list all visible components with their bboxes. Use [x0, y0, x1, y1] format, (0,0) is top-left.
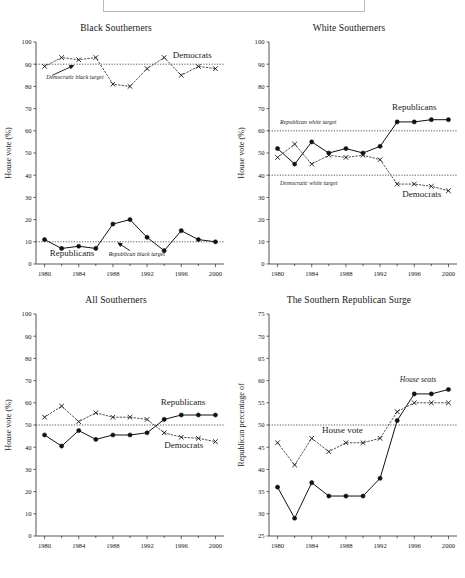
data-point-marker: [378, 476, 382, 480]
data-point-marker: [213, 240, 217, 244]
y-tick-label: 20: [25, 488, 32, 495]
data-point-marker: [446, 387, 450, 391]
data-point-marker: [327, 449, 332, 454]
annotation-arrow-head: [118, 243, 122, 247]
data-point-marker: [395, 409, 400, 414]
data-point-marker: [179, 413, 183, 417]
data-point-marker: [412, 120, 416, 124]
data-point-marker: [60, 444, 64, 448]
chart-panel-white-southerners: White Southerners 0102030405060708090100…: [233, 22, 465, 290]
x-tick-label: 2000: [442, 270, 456, 277]
x-tick-label: 1988: [106, 270, 120, 277]
data-point-marker: [145, 431, 149, 435]
y-tick-label: 60: [25, 127, 32, 134]
y-tick-label: 50: [25, 149, 32, 156]
data-point-marker: [344, 494, 348, 498]
x-tick-label: 1992: [140, 542, 153, 549]
y-tick-label: 0: [28, 532, 32, 539]
y-axis-title: House vote (%): [4, 399, 13, 451]
x-tick-label: 1996: [175, 542, 189, 549]
y-tick-label: 70: [25, 377, 32, 384]
data-point-marker: [162, 55, 167, 60]
chart-title-all-southerners: All Southerners: [0, 294, 232, 306]
data-point-marker: [446, 118, 450, 122]
y-tick-label: 80: [25, 355, 32, 362]
data-point-marker: [292, 463, 297, 468]
data-point-marker: [59, 404, 64, 409]
data-point-marker: [128, 84, 133, 89]
y-tick-label: 10: [25, 238, 32, 245]
x-tick-label: 1980: [271, 542, 285, 549]
y-axis-title: Republican percentage of: [237, 383, 246, 467]
data-point-marker: [429, 392, 433, 396]
y-tick-label: 30: [25, 466, 32, 473]
y-tick-label: 20: [258, 216, 265, 223]
top-border-box: [103, 0, 365, 12]
chart-svg-white-southerners: 0102030405060708090100198019841988199219…: [233, 34, 465, 288]
data-point-marker: [292, 142, 297, 147]
data-point-marker: [378, 157, 383, 162]
x-tick-label: 2000: [209, 270, 223, 277]
y-tick-label: 0: [261, 260, 265, 267]
data-point-marker: [361, 151, 365, 155]
y-tick-label: 30: [258, 510, 265, 517]
y-tick-label: 40: [25, 172, 32, 179]
data-point-marker: [309, 436, 314, 441]
chart-title-southern-republican-surge: The Southern Republican Surge: [233, 294, 465, 306]
y-tick-label: 10: [25, 510, 32, 517]
series-inline-label: Republicans: [161, 397, 206, 407]
y-tick-label: 60: [25, 399, 32, 406]
data-point-marker: [344, 155, 349, 160]
target-line-label: Republican black target: [108, 251, 166, 257]
data-point-marker: [42, 433, 46, 437]
y-tick-label: 40: [258, 466, 265, 473]
x-tick-label: 1996: [408, 542, 422, 549]
data-point-marker: [179, 73, 184, 78]
x-tick-label: 1984: [305, 270, 319, 277]
data-point-marker: [275, 485, 279, 489]
x-tick-label: 1980: [38, 270, 52, 277]
y-tick-label: 30: [25, 194, 32, 201]
data-point-marker: [42, 415, 47, 420]
data-point-marker: [378, 144, 382, 148]
x-tick-label: 1988: [106, 542, 120, 549]
data-point-marker: [309, 162, 314, 167]
x-tick-label: 1996: [175, 270, 189, 277]
series-inline-label: House vote: [322, 425, 363, 435]
y-tick-label: 0: [28, 260, 32, 267]
y-tick-label: 100: [22, 310, 33, 317]
data-point-marker: [344, 146, 348, 150]
data-point-marker: [310, 140, 314, 144]
series-inline-label: Republicans: [392, 102, 437, 112]
x-tick-label: 1992: [373, 542, 386, 549]
y-tick-label: 80: [258, 83, 265, 90]
x-tick-label: 2000: [209, 542, 223, 549]
data-point-marker: [429, 118, 433, 122]
x-tick-label: 1996: [408, 270, 422, 277]
y-axis-title: House vote (%): [237, 127, 246, 179]
y-tick-label: 45: [258, 444, 265, 451]
data-point-marker: [275, 440, 280, 445]
data-point-marker: [293, 162, 297, 166]
chart-svg-southern-republican-surge: 2530354045505560657075198019841988199219…: [233, 306, 465, 560]
y-tick-label: 60: [258, 127, 265, 134]
y-tick-label: 50: [258, 149, 265, 156]
data-point-marker: [196, 237, 200, 241]
data-point-marker: [42, 64, 47, 69]
series-inline-label: Democrats: [164, 440, 203, 450]
data-point-marker: [128, 218, 132, 222]
y-tick-label: 40: [258, 172, 265, 179]
y-tick-label: 65: [258, 355, 265, 362]
chart-title-white-southerners: White Southerners: [233, 22, 465, 34]
data-point-marker: [395, 120, 399, 124]
chart-panel-southern-republican-surge: The Southern Republican Surge 2530354045…: [233, 294, 465, 562]
y-tick-label: 20: [25, 216, 32, 223]
data-point-marker: [94, 437, 98, 441]
x-tick-label: 1992: [140, 270, 153, 277]
data-point-marker: [128, 433, 132, 437]
x-tick-label: 1980: [38, 542, 52, 549]
data-point-marker: [145, 66, 150, 71]
chart-panel-black-southerners: Black Southerners 0102030405060708090100…: [0, 22, 232, 290]
x-tick-label: 1984: [72, 542, 86, 549]
series-inline-label: Democrats: [173, 50, 212, 60]
